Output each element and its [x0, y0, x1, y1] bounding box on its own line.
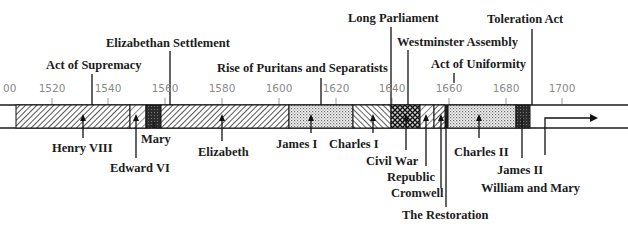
- timeline-graphic: [0, 0, 628, 231]
- scale-ticks: [52, 98, 562, 104]
- period-cromwell: Cromwell: [391, 187, 444, 200]
- tick-label-1520: 1520: [39, 83, 66, 94]
- segment-cromwell: [434, 105, 445, 128]
- period-elizabeth: Elizabeth: [198, 146, 249, 159]
- event-elizabethan-settlement: Elizabethan Settlement: [106, 37, 230, 50]
- tick-label-1680: 1680: [493, 83, 520, 94]
- period-james-ii: James II: [497, 164, 543, 177]
- event-act-of-uniformity: Act of Uniformity: [431, 58, 526, 71]
- period-edward-vi: Edward VI: [110, 162, 170, 175]
- tick-label-1500: 00: [3, 83, 16, 94]
- tick-label-1560: 1560: [152, 83, 179, 94]
- event-westminster-assembly: Westminster Assembly: [397, 36, 518, 49]
- tick-label-1600: 1600: [266, 83, 293, 94]
- period-william-and-mary: William and Mary: [481, 182, 580, 195]
- period-the-restoration: The Restoration: [402, 209, 488, 222]
- event-long-parliament: Long Parliament: [348, 12, 439, 25]
- segment-charles-ii: [448, 105, 516, 128]
- william-mary-arrow: [545, 118, 590, 155]
- period-mary: Mary: [141, 133, 171, 146]
- tick-label-1640: 1640: [379, 83, 406, 94]
- segment-henry-viii: [16, 105, 130, 128]
- segment-elizabeth: [161, 105, 289, 128]
- timeline-diagram: 00 1520 1540 1560 1580 1600 1620 1640 16…: [0, 0, 628, 231]
- arrowhead-icon: [590, 114, 598, 122]
- tick-label-1660: 1660: [436, 83, 463, 94]
- period-henry-viii: Henry VIII: [52, 142, 113, 155]
- event-toleration-act: Toleration Act: [487, 13, 563, 26]
- period-civil-war: Civil War: [366, 155, 418, 168]
- tick-label-1700: 1700: [549, 83, 576, 94]
- period-republic: Republic: [387, 171, 435, 184]
- tick-label-1580: 1580: [209, 83, 236, 94]
- period-charles-ii: Charles II: [454, 146, 509, 159]
- period-james-i: James I: [276, 138, 317, 151]
- tick-label-1620: 1620: [323, 83, 350, 94]
- segment-james-i: [289, 105, 353, 128]
- tick-label-1540: 1540: [95, 83, 122, 94]
- event-rise-of-puritans: Rise of Puritans and Separatists: [217, 62, 388, 75]
- period-charles-i: Charles I: [329, 138, 379, 151]
- segment-james-ii: [516, 105, 530, 128]
- event-act-of-supremacy: Act of Supremacy: [46, 59, 142, 72]
- segment-edward-vi: [130, 105, 146, 128]
